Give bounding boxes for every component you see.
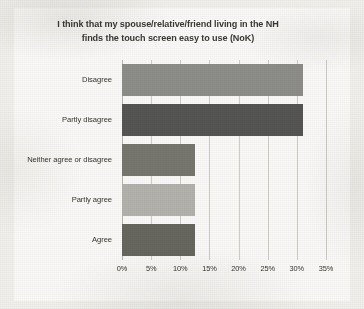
- gridline-35%: [326, 60, 327, 260]
- category-axis-labels: DisagreePartly disagreeNeither agree or …: [0, 60, 118, 260]
- plot-area: [122, 60, 326, 260]
- bar-neither-agree-or-disagree: [122, 144, 195, 175]
- chart-title: I think that my spouse/relative/friend l…: [14, 18, 322, 45]
- category-label-disagree: Disagree: [82, 75, 112, 84]
- category-label-agree: Agree: [92, 235, 112, 244]
- x-tick-30%: 30%: [290, 264, 305, 273]
- category-label-neither-agree-or-disagree: Neither agree or disagree: [27, 155, 112, 164]
- category-label-partly-agree: Partly agree: [72, 195, 112, 204]
- x-tick-35%: 35%: [319, 264, 334, 273]
- x-tick-15%: 15%: [202, 264, 217, 273]
- x-tick-20%: 20%: [231, 264, 246, 273]
- category-label-partly-disagree: Partly disagree: [62, 115, 112, 124]
- x-tick-10%: 10%: [173, 264, 188, 273]
- scanned-page-background: I think that my spouse/relative/friend l…: [0, 0, 364, 309]
- bar-disagree: [122, 64, 303, 95]
- x-tick-5%: 5%: [146, 264, 156, 273]
- x-tick-0%: 0%: [117, 264, 127, 273]
- x-tick-25%: 25%: [260, 264, 275, 273]
- bar-partly-disagree: [122, 104, 303, 135]
- bar-partly-agree: [122, 184, 195, 215]
- chart-title-line-1: I think that my spouse/relative/friend l…: [14, 18, 322, 32]
- x-axis-tick-labels: 0%5%10%15%20%25%30%35%: [122, 264, 326, 278]
- bar-agree: [122, 224, 195, 255]
- chart-title-line-2: finds the touch screen easy to use (NoK): [14, 32, 322, 46]
